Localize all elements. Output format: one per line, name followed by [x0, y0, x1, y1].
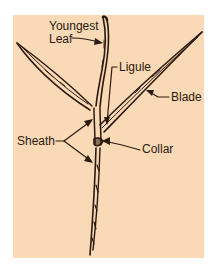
label-youngest-leaf-line2: Leaf	[49, 33, 72, 46]
collar	[94, 138, 103, 146]
right-blade	[100, 32, 202, 132]
label-sheath: Sheath	[17, 135, 55, 148]
label-blade: Blade	[171, 91, 202, 104]
label-ligule: Ligule	[119, 61, 151, 74]
stem	[90, 148, 100, 255]
label-collar: Collar	[142, 143, 173, 156]
left-blade	[17, 43, 92, 110]
